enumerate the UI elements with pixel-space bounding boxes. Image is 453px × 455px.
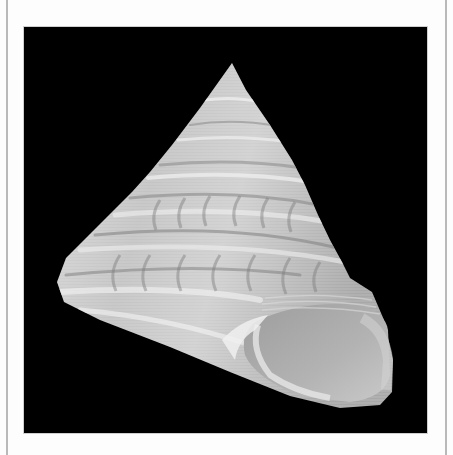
image-frame bbox=[0, 0, 453, 455]
frame-border-left bbox=[6, 0, 8, 455]
frame-border-right bbox=[445, 0, 447, 455]
shell-illustration bbox=[24, 27, 427, 433]
shell-photo bbox=[24, 27, 427, 433]
